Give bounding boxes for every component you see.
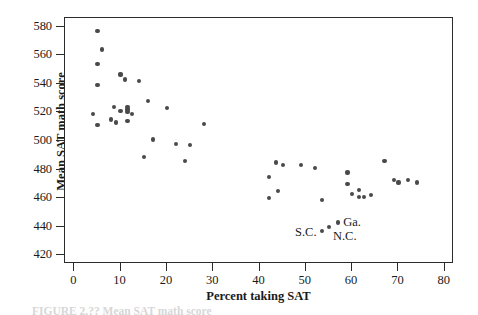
y-axis-tick — [56, 26, 64, 27]
y-axis-tick — [56, 140, 64, 141]
x-axis-tick — [305, 263, 306, 271]
scatter-point — [151, 137, 155, 141]
x-axis-tick-label: 80 — [424, 274, 464, 287]
scatter-point — [396, 180, 400, 184]
point-label: S.C. — [295, 226, 317, 239]
y-axis-tick — [56, 54, 64, 55]
scatter-point — [130, 112, 134, 116]
scatter-point — [406, 178, 410, 182]
figure-caption: FIGURE 2.?? Mean SAT math score — [32, 305, 462, 315]
scatter-point — [174, 142, 178, 146]
x-axis-tick — [73, 263, 74, 271]
scatter-point — [345, 170, 349, 174]
scatter-point — [357, 195, 361, 199]
x-axis-tick-label: 70 — [377, 274, 417, 287]
y-axis-tick-label: 520 — [10, 105, 52, 118]
y-axis-tick — [56, 169, 64, 170]
scatter-point — [362, 195, 366, 199]
y-axis-tick-label: 420 — [10, 248, 52, 261]
y-axis-tick — [56, 254, 64, 255]
scatter-point — [369, 193, 373, 197]
scatter-point — [276, 189, 280, 193]
plot-area: S.C.N.C.Ga. — [64, 17, 453, 263]
y-axis-tick — [56, 111, 64, 112]
y-axis-tick-label: 580 — [10, 20, 52, 33]
scatter-point — [95, 62, 99, 66]
y-axis-tick-label: 480 — [10, 163, 52, 176]
scatter-point — [267, 196, 271, 200]
x-axis-tick — [351, 263, 352, 271]
y-axis-tick-label: 440 — [10, 220, 52, 233]
y-axis-tick — [56, 197, 64, 198]
x-axis-tick-label: 0 — [53, 274, 93, 287]
scatter-point — [299, 163, 303, 167]
scatter-point — [188, 143, 192, 147]
scatter-point — [114, 120, 118, 124]
y-axis-tick — [56, 226, 64, 227]
scatter-point — [146, 99, 150, 103]
scatter-point — [91, 112, 95, 116]
x-axis-tick — [212, 263, 213, 271]
y-axis-tick-label: 460 — [10, 191, 52, 204]
scatter-point — [123, 77, 127, 81]
scatter-point — [382, 159, 386, 163]
scatter-point — [320, 198, 324, 202]
scatter-point — [336, 220, 340, 224]
y-axis-tick — [56, 83, 64, 84]
point-label: Ga. — [343, 216, 361, 229]
scatter-point — [137, 79, 141, 83]
scatter-point — [415, 180, 419, 184]
scatter-point — [350, 192, 354, 196]
scatter-point — [95, 123, 99, 127]
scatter-point — [112, 105, 116, 109]
scatter-point — [118, 73, 122, 77]
x-axis-title: Percent taking SAT — [64, 290, 453, 303]
x-axis-tick-label: 30 — [192, 274, 232, 287]
scatter-point — [327, 225, 331, 229]
x-axis-tick — [259, 263, 260, 271]
scatter-point — [165, 106, 169, 110]
x-axis-tick — [120, 263, 121, 271]
scatter-point — [109, 117, 113, 121]
x-axis-tick-label: 10 — [100, 274, 140, 287]
x-axis-tick-label: 50 — [285, 274, 325, 287]
y-axis-tick-label: 540 — [10, 77, 52, 90]
x-axis-tick-label: 60 — [331, 274, 371, 287]
y-axis-tick-label: 560 — [10, 48, 52, 61]
scatter-point — [95, 83, 99, 87]
x-axis-tick-label: 20 — [146, 274, 186, 287]
scatter-plot-figure: Mean SAT math score Percent taking SAT 4… — [0, 0, 478, 315]
scatter-point — [125, 119, 129, 123]
scatter-point — [274, 160, 278, 164]
scatter-point — [281, 163, 285, 167]
scatter-point — [320, 229, 324, 233]
scatter-point — [202, 122, 206, 126]
scatter-point — [125, 110, 129, 114]
scatter-point — [345, 182, 349, 186]
scatter-point — [95, 29, 99, 33]
point-label: N.C. — [333, 230, 357, 243]
scatter-point — [313, 166, 317, 170]
y-axis-tick-label: 500 — [10, 134, 52, 147]
scatter-point — [142, 155, 146, 159]
scatter-point — [100, 47, 104, 51]
x-axis-tick-label: 40 — [239, 274, 279, 287]
scatter-point — [118, 109, 122, 113]
scatter-point — [183, 159, 187, 163]
scatter-point — [357, 188, 361, 192]
x-axis-tick — [166, 263, 167, 271]
x-axis-tick — [444, 263, 445, 271]
x-axis-tick — [397, 263, 398, 271]
scatter-point — [392, 178, 396, 182]
scatter-point — [267, 175, 271, 179]
